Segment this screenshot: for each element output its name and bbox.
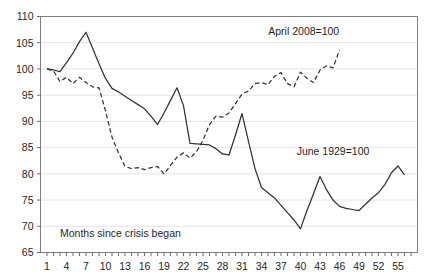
x-tick-label: 46: [334, 260, 346, 272]
y-tick-label: 100: [16, 63, 34, 75]
x-tick-label: 49: [353, 260, 365, 272]
y-tick-label: 85: [22, 141, 34, 153]
x-tick-label: 22: [178, 260, 190, 272]
annotation-june-1929: June 1929=100: [297, 145, 370, 157]
chart-container: 65707580859095100105110 1471013161922252…: [0, 0, 439, 280]
x-tick-label: 40: [295, 260, 307, 272]
y-tick-label: 110: [17, 10, 34, 22]
annotation-axis-note: Months since crisis began: [60, 227, 181, 239]
x-tick-label: 1: [44, 260, 50, 272]
y-tick-label: 70: [22, 220, 34, 232]
y-tick-label: 95: [22, 89, 34, 101]
x-tick-label: 25: [197, 260, 209, 272]
x-tick-label: 43: [314, 260, 326, 272]
x-tick-label: 37: [275, 260, 287, 272]
y-tick-label: 75: [22, 194, 34, 206]
x-tick-label: 13: [119, 260, 131, 272]
line-chart: 65707580859095100105110 1471013161922252…: [0, 0, 439, 280]
annotation-april-2008: April 2008=100: [268, 25, 339, 37]
x-tick-label: 10: [100, 260, 112, 272]
y-tick-label: 65: [22, 246, 34, 258]
x-tick-label: 31: [236, 260, 248, 272]
x-tick-label: 4: [64, 260, 70, 272]
x-tick-label: 19: [158, 260, 170, 272]
y-tick-label: 80: [22, 168, 34, 180]
y-tick-label: 105: [16, 37, 34, 49]
x-tick-label: 7: [83, 260, 89, 272]
x-tick-label: 52: [373, 260, 385, 272]
x-tick-label: 16: [139, 260, 151, 272]
x-tick-label: 55: [392, 260, 404, 272]
x-tick-label: 28: [217, 260, 229, 272]
y-tick-label: 90: [22, 115, 34, 127]
x-tick-label: 34: [256, 260, 268, 272]
